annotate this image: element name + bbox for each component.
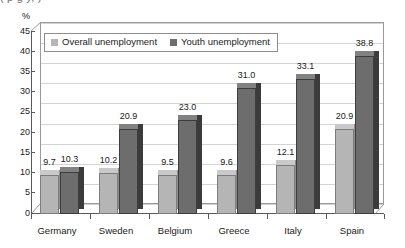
bar-group: 9.710.3 xyxy=(40,22,87,214)
bar-value-label: 23.0 xyxy=(171,103,205,112)
bar-top-face xyxy=(178,115,197,120)
bar-group: 10.220.9 xyxy=(99,22,146,214)
x-axis-category-labels: Germany Sweden Belgium Greece Italy Spai… xyxy=(31,225,384,241)
x-tick-mark xyxy=(208,214,209,219)
bar-front-face xyxy=(237,88,256,214)
bar-side-face xyxy=(197,115,202,209)
x-label-belgium: Belgium xyxy=(142,225,208,236)
bar-value-label: 38.8 xyxy=(348,39,382,48)
x-tick-mark xyxy=(326,214,327,219)
bar-front-face xyxy=(119,129,138,214)
y-tick-label: 25 xyxy=(6,107,30,116)
bar-plot-area: 9.710.310.220.99.523.09.631.012.133.120.… xyxy=(31,22,384,214)
bar-top-face xyxy=(276,160,295,165)
bar-front-face xyxy=(178,120,197,214)
bar-front-face xyxy=(60,172,79,214)
x-label-greece: Greece xyxy=(201,225,267,236)
x-tick-mark xyxy=(267,214,268,219)
bar-side-face xyxy=(79,167,84,209)
y-tick-label: 5 xyxy=(6,188,30,197)
x-tick-mark xyxy=(31,214,32,219)
y-tick-label: 0 xyxy=(6,209,30,218)
y-tick-label: 40 xyxy=(6,47,30,56)
unemployment-bar-chart: % 45 40 35 30 25 20 15 10 5 0 xyxy=(0,0,405,248)
y-axis-tick-labels: 45 40 35 30 25 20 15 10 5 0 xyxy=(0,0,30,248)
bar-top-face xyxy=(217,170,236,175)
bar-value-label: 20.9 xyxy=(112,112,146,121)
x-label-italy: Italy xyxy=(260,225,326,236)
bar-group: 20.938.8 xyxy=(335,22,382,214)
bar-front-face xyxy=(355,56,374,214)
bar-side-face xyxy=(315,74,320,209)
bar-top-face xyxy=(355,51,374,56)
x-tick-mark xyxy=(149,214,150,219)
bar-front-face xyxy=(217,175,236,214)
bar-front-face xyxy=(276,165,295,214)
x-tick-mark xyxy=(384,214,385,219)
bar-value-label: 10.3 xyxy=(53,155,87,164)
bar-group: 9.631.0 xyxy=(217,22,264,214)
bar-top-face xyxy=(40,170,59,175)
bar-top-face xyxy=(158,170,177,175)
bar-value-label: 33.1 xyxy=(289,62,323,71)
bar-value-label: 31.0 xyxy=(230,71,264,80)
bar-front-face xyxy=(99,173,118,214)
bar-front-face xyxy=(40,175,59,214)
x-label-spain: Spain xyxy=(319,225,385,236)
bar-top-face xyxy=(296,74,315,79)
y-tick-label: 30 xyxy=(6,87,30,96)
x-tick-mark xyxy=(90,214,91,219)
bar-top-face xyxy=(119,124,138,129)
bar-top-face xyxy=(237,83,256,88)
bar-side-face xyxy=(138,124,143,209)
bar-group: 9.523.0 xyxy=(158,22,205,214)
y-tick-label: 35 xyxy=(6,67,30,76)
x-label-germany: Germany xyxy=(24,225,90,236)
bar-front-face xyxy=(296,79,315,214)
y-tick-label: 45 xyxy=(6,27,30,36)
bar-top-face xyxy=(60,167,79,172)
bar-front-face xyxy=(158,175,177,214)
bar-side-face xyxy=(256,83,261,209)
y-tick-label: 15 xyxy=(6,148,30,157)
y-tick-label: 20 xyxy=(6,128,30,137)
x-label-sweden: Sweden xyxy=(83,225,149,236)
bar-group: 12.133.1 xyxy=(276,22,323,214)
y-tick-label: 10 xyxy=(6,168,30,177)
bar-top-face xyxy=(335,124,354,129)
bar-front-face xyxy=(335,129,354,214)
bar-top-face xyxy=(99,168,118,173)
bar-side-face xyxy=(374,51,379,209)
